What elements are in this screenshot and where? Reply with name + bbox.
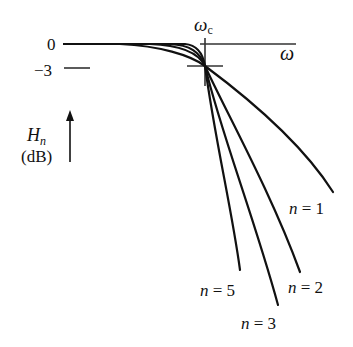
curve-n3: [64, 44, 278, 305]
magnitude-axis-unit: (dB): [21, 147, 52, 166]
curve-n2: [64, 44, 300, 272]
label-n1: n = 1: [289, 199, 324, 218]
tick-label-minus3db: −3: [34, 61, 52, 80]
butterworth-response-diagram: 0 −3 ωc ω n = 1 n = 2 n = 5 n = 3 Hn (dB…: [0, 0, 353, 347]
label-n2: n = 2: [288, 278, 323, 297]
label-n5: n = 5: [200, 281, 235, 300]
label-n3: n = 3: [241, 314, 276, 333]
response-curves: [64, 44, 333, 305]
arrow-up-icon: [66, 110, 74, 121]
tick-label-0db: 0: [47, 35, 56, 54]
magnitude-axis-label: Hn: [26, 125, 46, 148]
frequency-axis-label: ω: [280, 42, 294, 64]
cutoff-frequency-label: ωc: [194, 14, 213, 37]
curve-n5: [64, 44, 240, 270]
